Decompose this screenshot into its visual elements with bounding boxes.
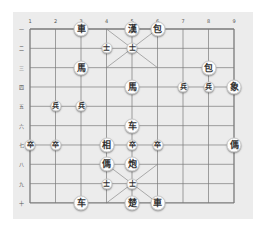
chess-piece[interactable]: 馬 — [74, 60, 89, 75]
row-label: 八 — [19, 162, 24, 167]
chess-piece[interactable]: 卒 — [127, 139, 138, 150]
chess-piece[interactable]: 車 — [74, 22, 89, 37]
chess-piece[interactable]: 兵 — [76, 101, 87, 112]
chess-piece[interactable]: 士 — [101, 178, 112, 189]
column-label: 8 — [207, 19, 210, 24]
chess-piece[interactable]: 兵 — [203, 81, 214, 92]
chess-piece[interactable]: 士 — [101, 43, 112, 54]
column-label: 4 — [105, 19, 108, 24]
chess-piece[interactable]: 車 — [150, 195, 165, 210]
chess-piece[interactable]: 卒 — [152, 139, 163, 150]
row-label: 一 — [19, 27, 24, 32]
chess-piece[interactable]: 馬 — [125, 79, 140, 94]
chess-piece[interactable]: 漢 — [125, 22, 140, 37]
chess-piece[interactable]: 车 — [125, 118, 140, 133]
row-label: 五 — [19, 104, 24, 109]
row-label: 七 — [19, 142, 24, 147]
column-label: 9 — [232, 19, 235, 24]
row-label: 六 — [19, 123, 24, 128]
chess-piece[interactable]: 卒 — [50, 139, 61, 150]
column-label: 7 — [181, 19, 184, 24]
chess-piece[interactable]: 楚 — [125, 195, 140, 210]
chess-piece[interactable]: 包 — [150, 22, 165, 37]
chess-piece[interactable]: 车 — [74, 195, 89, 210]
chess-piece[interactable]: 傌 — [99, 157, 114, 172]
row-label: 十 — [19, 200, 24, 205]
chess-piece[interactable]: 士 — [127, 43, 138, 54]
chess-piece[interactable]: 卒 — [25, 139, 36, 150]
chess-piece[interactable]: 兵 — [178, 81, 189, 92]
chess-piece[interactable]: 傌 — [227, 137, 242, 152]
row-label: 三 — [19, 65, 24, 70]
row-label: 九 — [19, 181, 24, 186]
chess-piece[interactable]: 兵 — [50, 101, 61, 112]
chess-piece[interactable]: 士 — [127, 178, 138, 189]
chess-piece[interactable]: 炮 — [125, 157, 140, 172]
row-label: 四 — [19, 84, 24, 89]
chess-piece[interactable]: 相 — [99, 137, 114, 152]
chess-piece[interactable]: 包 — [201, 60, 216, 75]
row-label: 二 — [19, 46, 24, 51]
column-label: 2 — [54, 19, 57, 24]
column-label: 1 — [28, 19, 31, 24]
chess-piece[interactable]: 象 — [227, 79, 242, 94]
